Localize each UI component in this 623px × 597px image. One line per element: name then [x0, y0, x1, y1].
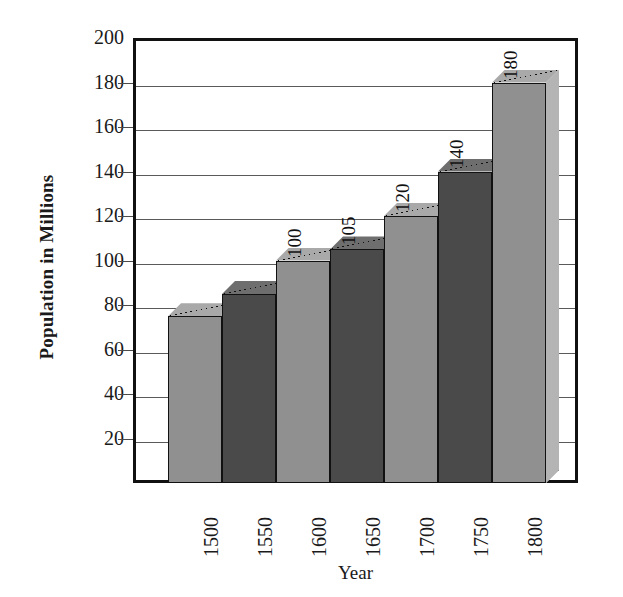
y-axis-tick-labels: 20406080100120140160180200 — [50, 0, 124, 597]
bar-front-face — [276, 261, 330, 484]
x-axis-tick-label: 1600 — [309, 517, 329, 557]
x-axis-tick-label: 1800 — [525, 517, 545, 557]
bar-value-label: 140 — [447, 139, 466, 168]
bar-front-face — [222, 294, 276, 483]
bar-value-label: 180 — [501, 50, 520, 79]
x-axis-tick-label: 1650 — [363, 517, 383, 557]
bar-value-label: 120 — [393, 184, 412, 213]
x-axis-tick-label: 1550 — [255, 517, 275, 557]
y-axis-tick-label: 20 — [66, 428, 124, 448]
y-axis-tick-label: 100 — [66, 250, 124, 270]
x-axis-tick-labels: 1500155016001650170017501800 — [133, 483, 578, 563]
y-axis-tick-label: 200 — [66, 27, 124, 47]
bar-side-outline — [546, 70, 559, 484]
bar-front-face — [384, 216, 438, 483]
bar-chart: Population in Millions 20406080100120140… — [0, 0, 623, 597]
bar-value-label: 105 — [339, 217, 358, 246]
y-axis-tick-label: 120 — [66, 205, 124, 225]
bar-front-face — [438, 172, 492, 484]
y-axis-tick-label: 140 — [66, 161, 124, 181]
x-axis-tick-label: 1700 — [417, 517, 437, 557]
x-axis-title: Year — [133, 562, 578, 584]
bar-value-label: 100 — [285, 228, 304, 257]
x-axis-tick-label: 1500 — [201, 517, 221, 557]
bar-front-face — [330, 249, 384, 483]
bar-front-face — [168, 316, 222, 483]
bars-layer: 100105120140180 — [133, 38, 578, 483]
x-axis-tick-label: 1750 — [471, 517, 491, 557]
bar-1800[interactable] — [492, 70, 559, 484]
y-axis-tick-label: 160 — [66, 116, 124, 136]
y-axis-tick-label: 40 — [66, 383, 124, 403]
bar-front-face — [492, 83, 546, 484]
y-axis-tick-label: 80 — [66, 294, 124, 314]
y-axis-tick-label: 180 — [66, 72, 124, 92]
y-axis-tick-label: 60 — [66, 339, 124, 359]
